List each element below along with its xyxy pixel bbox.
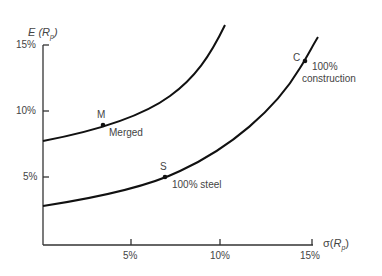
merged-curve xyxy=(43,25,225,141)
chart-plot xyxy=(0,0,382,276)
steel-label: 100% steel xyxy=(172,179,221,190)
merged-label: Merged xyxy=(109,127,143,138)
x-tick-15: 15% xyxy=(300,250,320,261)
x-tick-10: 10% xyxy=(210,250,230,261)
y-tick-10: 10% xyxy=(16,105,36,116)
marker-c-label: C xyxy=(293,52,300,63)
point-m xyxy=(101,123,106,128)
point-c xyxy=(303,59,308,64)
construction-label-line1: 100% xyxy=(312,61,338,72)
marker-s-label: S xyxy=(160,161,167,172)
x-tick-5: 5% xyxy=(123,250,137,261)
construction-label-line2: construction xyxy=(302,73,356,84)
x-axis-label: σ(Rp) xyxy=(323,237,349,251)
y-tick-15: 15% xyxy=(16,39,36,50)
marker-m-label: M xyxy=(97,109,105,120)
y-tick-5: 5% xyxy=(23,171,37,182)
point-s xyxy=(163,175,168,180)
